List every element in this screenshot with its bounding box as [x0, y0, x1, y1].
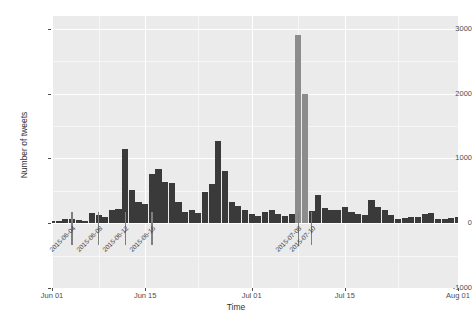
x-tick-label: Jul 15: [335, 291, 355, 300]
bar: [362, 215, 368, 223]
bar: [115, 209, 121, 223]
bar: [262, 212, 268, 224]
y-tick-label: 0: [428, 219, 472, 227]
tweet-volume-bar-chart: 3000200010000-1000 Number of tweets Jun …: [0, 0, 472, 319]
bar: [215, 141, 221, 223]
bar: [89, 213, 95, 223]
bar: [382, 210, 388, 223]
bar: [109, 210, 115, 223]
bar: [355, 214, 361, 223]
bar: [368, 200, 374, 223]
bar: [162, 182, 168, 223]
bar: [328, 210, 334, 223]
bar: [269, 210, 275, 223]
bar: [295, 35, 301, 223]
bar: [388, 215, 394, 223]
bar: [315, 195, 321, 223]
x-tick-label: Jul 01: [242, 291, 262, 300]
y-axis-title: Number of tweets: [19, 75, 29, 215]
bar: [282, 216, 288, 223]
y-tick-mark: [48, 158, 51, 159]
bar: [76, 220, 82, 224]
bar: [229, 202, 235, 223]
bar: [155, 169, 161, 223]
bar: [415, 217, 421, 223]
bar: [235, 206, 241, 223]
bar: [422, 214, 428, 224]
bar: [348, 212, 354, 223]
bar: [62, 219, 68, 223]
y-tick-mark: [48, 94, 51, 95]
bar: [242, 210, 248, 224]
bar: [302, 94, 308, 224]
bar: [129, 190, 135, 224]
bar: [135, 202, 141, 223]
x-tick-label: Jun 15: [134, 291, 157, 300]
bar: [195, 213, 201, 223]
bar: [102, 217, 108, 223]
x-tick-mark: [458, 288, 459, 291]
plot-panel: [52, 16, 458, 288]
bar: [375, 207, 381, 223]
bar: [222, 171, 228, 223]
y-tick-label: 1000: [428, 154, 472, 162]
bar: [289, 214, 295, 224]
bar: [335, 210, 341, 224]
x-tick-label: Jun 01: [41, 291, 64, 300]
bar: [142, 204, 148, 223]
bar: [249, 214, 255, 224]
bar: [169, 183, 175, 223]
bar: [342, 207, 348, 223]
x-tick-mark: [52, 288, 53, 291]
y-tick-label: 3000: [428, 25, 472, 33]
bar: [322, 208, 328, 223]
x-tick-label: Aug 01: [446, 291, 470, 300]
x-tick-mark: [345, 288, 346, 291]
y-tick-mark: [48, 29, 51, 30]
bars-layer: [52, 16, 458, 288]
bar: [275, 214, 281, 223]
bar: [402, 218, 408, 223]
bar: [408, 217, 414, 223]
bar: [189, 210, 195, 223]
bar: [209, 184, 215, 223]
y-tick-mark: [48, 223, 51, 224]
y-tick-mark: [48, 288, 51, 289]
bar: [202, 192, 208, 223]
x-axis-title: Time: [0, 302, 472, 312]
bar: [82, 221, 88, 224]
bar: [175, 202, 181, 223]
bar: [395, 219, 401, 224]
x-tick-mark: [252, 288, 253, 291]
y-tick-label: 2000: [428, 90, 472, 98]
bar: [56, 221, 62, 223]
bar: [182, 212, 188, 224]
bar: [255, 216, 261, 223]
bar: [52, 221, 55, 223]
x-tick-mark: [145, 288, 146, 291]
